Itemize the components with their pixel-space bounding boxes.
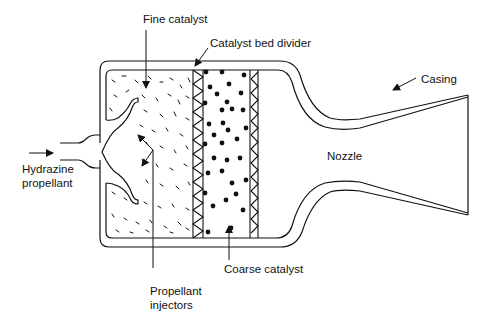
label-catalyst-bed-divider: Catalyst bed divider bbox=[210, 36, 311, 50]
label-propellant-injectors-1: Propellant bbox=[150, 284, 202, 298]
bed-retainer bbox=[250, 70, 258, 238]
casing-pointer bbox=[393, 78, 416, 90]
injectors-pointer-down bbox=[142, 150, 153, 166]
label-nozzle: Nozzle bbox=[327, 149, 362, 163]
propellant-injectors bbox=[102, 98, 138, 204]
label-propellant-injectors-2: injectors bbox=[150, 298, 193, 312]
label-hydrazine: Hydrazine bbox=[22, 162, 74, 176]
injectors-pointer-up bbox=[138, 135, 153, 268]
chamber bbox=[106, 70, 258, 238]
divider-pointer bbox=[195, 48, 208, 66]
catalyst-bed-divider bbox=[193, 70, 203, 238]
label-fine-catalyst: Fine catalyst bbox=[143, 12, 208, 26]
label-propellant: propellant bbox=[22, 176, 73, 190]
label-coarse-catalyst: Coarse catalyst bbox=[224, 262, 303, 276]
label-casing: Casing bbox=[421, 72, 457, 86]
casing bbox=[100, 61, 468, 247]
coarse-catalyst-bed bbox=[203, 70, 249, 235]
